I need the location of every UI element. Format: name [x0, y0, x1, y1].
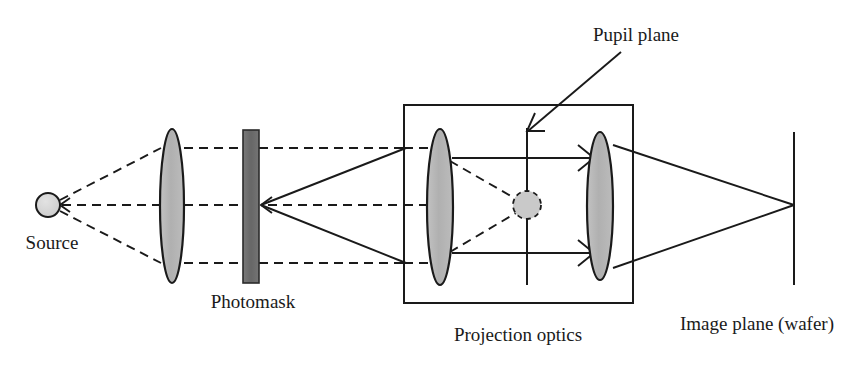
photomask-plate — [243, 130, 259, 283]
ray-exit-bottom — [613, 205, 794, 268]
photomask-label: Photomask — [211, 291, 296, 312]
ray-lens-to-pupil-lower — [450, 213, 516, 252]
image-plane-label: Image plane (wafer) — [680, 313, 834, 335]
pupil-aperture-spot — [513, 191, 541, 219]
lithography-diagram: Source Photomask Pupil plane Projection … — [0, 0, 846, 374]
ray-mask-diffract-down — [261, 205, 406, 263]
source-sphere — [36, 193, 60, 217]
arrowhead-pupil-leader-icon — [527, 113, 545, 131]
pupil-plane-leader-line — [528, 52, 621, 131]
projection-optics-label: Projection optics — [454, 324, 582, 345]
ray-source-to-lens-top — [60, 148, 161, 200]
source-label: Source — [26, 232, 79, 253]
ray-exit-top — [613, 145, 794, 205]
projection-lens-right — [587, 132, 613, 280]
optics-schematic-svg: Source Photomask Pupil plane Projection … — [0, 0, 846, 374]
pupil-plane-label: Pupil plane — [593, 24, 679, 45]
ray-mask-diffract-up — [261, 148, 406, 205]
condenser-lens — [160, 129, 184, 283]
projection-lens-left — [427, 129, 453, 285]
ray-lens-to-pupil-upper — [450, 161, 516, 199]
